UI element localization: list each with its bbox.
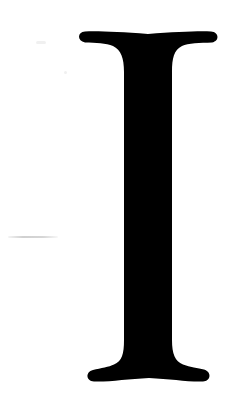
serif-letter-i-glyph <box>0 0 232 406</box>
glyph-canvas: I <box>0 0 232 406</box>
letter-i-shape <box>79 31 218 381</box>
